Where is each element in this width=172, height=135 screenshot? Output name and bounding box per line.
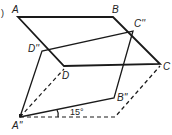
label-c: C [163, 61, 171, 72]
geometry-diagram: ) A B C D A'' B'' C'' D'' 15° [0, 0, 172, 135]
label-a: A [11, 4, 19, 15]
label-d: D [62, 70, 69, 81]
part-marker: ) [1, 8, 4, 18]
angle-label: 15° [70, 107, 84, 117]
label-c2: C'' [134, 18, 146, 29]
corner-marker [19, 114, 22, 117]
angle-arc [57, 110, 58, 117]
dashed-a2-c [20, 66, 160, 117]
label-a2: A'' [11, 120, 24, 131]
label-b: B [112, 4, 119, 15]
label-b2: B'' [117, 92, 129, 103]
label-d2: D'' [28, 43, 40, 54]
